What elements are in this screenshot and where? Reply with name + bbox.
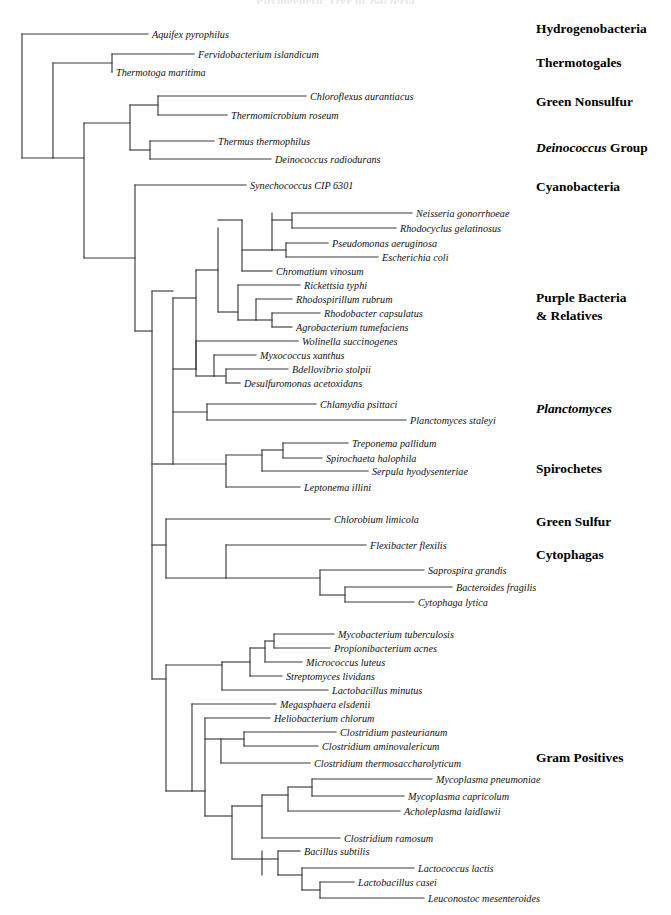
taxon-label-rhodospiril: Rhodospirillum rubrum: [295, 294, 393, 305]
taxon-label-closramosum: Clostridium ramosum: [344, 833, 433, 844]
group-label-cytophagas: Cytophagas: [536, 547, 604, 562]
taxon-label-saprospira: Saprospira grandis: [428, 565, 507, 576]
taxon-label-thermotoga: Thermotoga maritima: [116, 67, 206, 78]
taxon-label-wolinella: Wolinella succinogenes: [302, 336, 398, 347]
taxon-label-mycocapri: Mycoplasma capricolum: [407, 791, 509, 802]
taxon-label-lactococcus: Lactococcus lactis: [417, 863, 494, 874]
taxon-label-mycopneu: Mycoplasma pneumoniae: [435, 774, 541, 785]
taxon-label-synecho: Synechococcus CIP 6301: [250, 180, 353, 191]
taxon-label-bdellovibrio: Bdellovibrio stolpii: [292, 364, 371, 375]
taxon-label-aquifex: Aquifex pyrophilus: [151, 29, 229, 40]
taxon-label-lactobmin: Lactobacillus minutus: [331, 685, 422, 696]
group-label-cyanobacteria: Cyanobacteria: [536, 179, 620, 194]
taxon-label-neisseria: Neisseria gonorrhoeae: [415, 208, 510, 219]
taxon-label-rhodobacter: Rhodobacter capsulatus: [323, 308, 423, 319]
taxon-label-fervido: Fervidobacterium islandicum: [197, 49, 319, 60]
taxon-label-acholeplasma: Acholeplasma laidlawii: [403, 806, 501, 817]
taxon-label-thermomicro: Thermomicrobium roseum: [231, 110, 339, 121]
taxon-label-streptomyces: Streptomyces lividans: [286, 671, 375, 682]
taxon-label-clospast: Clostridium pasteurianum: [340, 727, 447, 738]
taxon-label-leuconostoc: Leuconostoc mesenteroides: [427, 893, 540, 904]
taxon-label-heliobact: Heliobacterium chlorum: [273, 713, 374, 724]
taxon-label-rhodocyclus: Rhodocyclus gelatinosus: [399, 223, 501, 234]
taxon-label-deinococcus: Deinococcus radiodurans: [274, 154, 381, 165]
tree-canvas: Aquifex pyrophilusFervidobacterium islan…: [0, 0, 671, 915]
phylogenetic-tree-figure: Aquifex pyrophilusFervidobacterium islan…: [0, 0, 671, 915]
taxon-label-pseudomonas: Pseudomonas aeruginosa: [331, 238, 437, 249]
taxon-label-leptonema: Leptonema illini: [303, 482, 371, 493]
taxon-label-desulfuro: Desulfuromonas acetoxidans: [243, 378, 362, 389]
taxon-label-lactobcasei: Lactobacillus casei: [357, 877, 437, 888]
taxon-label-flexibacter: Flexibacter flexilis: [369, 540, 447, 551]
group-label-purple-bacteria: Purple Bacteria: [536, 290, 627, 305]
taxon-label-layer: Aquifex pyrophilusFervidobacterium islan…: [116, 29, 541, 904]
taxon-label-closamino: Clostridium aminovalericum: [322, 741, 439, 752]
group-label-hydrogenobacteria: Hydrogenobacteria: [536, 21, 647, 36]
taxon-label-micrococcus: Micrococcus luteus: [305, 657, 385, 668]
taxon-label-chlorobium: Chlorobium limicola: [334, 514, 419, 525]
taxon-label-treponema: Treponema pallidum: [352, 438, 436, 449]
group-label-planctomyces: Planctomyces: [536, 401, 612, 416]
taxon-label-megasphaera: Megasphaera elsdenii: [279, 699, 370, 710]
taxon-label-planctomyces: Planctomyces staleyi: [409, 415, 496, 426]
taxon-label-chloroflexus: Chloroflexus aurantiacus: [310, 91, 414, 102]
taxon-label-chlamydia: Chlamydia psittaci: [320, 399, 397, 410]
taxon-label-spirochaeta: Spirochaeta halophila: [326, 453, 416, 464]
group-label-spirochetes: Spirochetes: [536, 461, 602, 476]
taxon-label-agrobact: Agrobacterium tumefaciens: [295, 322, 409, 333]
group-label-thermotogales: Thermotogales: [536, 55, 622, 70]
group-label-green-sulfur: Green Sulfur: [536, 514, 611, 529]
group-label-purple-relatives: & Relatives: [536, 308, 603, 323]
taxon-label-mycobacter: Mycobacterium tuberculosis: [337, 629, 454, 640]
taxon-label-propioni: Propionibacterium acnes: [333, 643, 437, 654]
taxon-label-serpula: Serpula hyodysenteriae: [372, 466, 468, 477]
taxon-label-myxococcus: Myxococcus xanthus: [259, 350, 345, 361]
group-label-deinococcus-group: Deinococcus Group: [535, 140, 648, 155]
group-label-green-nonsulfur: Green Nonsulfur: [536, 94, 633, 109]
taxon-label-closthermo: Clostridium thermosaccharolyticum: [314, 758, 461, 769]
taxon-label-bacillus: Bacillus subtilis: [304, 846, 369, 857]
group-label-layer: HydrogenobacteriaThermotogalesGreen Nons…: [535, 21, 648, 765]
taxon-label-cytophaga: Cytophaga lytica: [418, 597, 488, 608]
taxon-label-bacteroides: Bacteroides fragilis: [456, 582, 536, 593]
group-label-gram-positives: Gram Positives: [536, 750, 623, 765]
taxon-label-rickettsia: Rickettsia typhi: [303, 280, 367, 291]
taxon-label-escherichia: Escherichia coli: [381, 252, 449, 263]
taxon-label-thermus: Thermus thermophilus: [218, 136, 310, 147]
taxon-label-chromatium: Chromatium vinosum: [276, 266, 364, 277]
